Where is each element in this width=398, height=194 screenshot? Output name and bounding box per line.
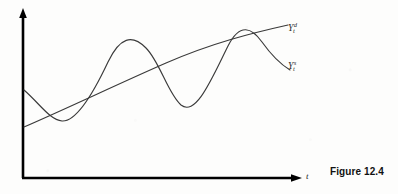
demand-label-superscript: d xyxy=(294,21,297,28)
x-axis-arrowhead xyxy=(291,174,302,182)
figure-caption: Figure 12.4 xyxy=(330,166,384,177)
demand-curve xyxy=(24,25,288,127)
x-axis-label: t xyxy=(306,172,309,181)
figure-container: t Ytd Yts Figure 12.4 xyxy=(0,0,398,194)
supply-label-superscript: s xyxy=(294,59,297,66)
plot-area xyxy=(0,0,398,194)
supply-curve xyxy=(24,30,290,121)
y-axis-arrowhead xyxy=(19,8,27,18)
series-label-demand: Ytd xyxy=(288,22,297,34)
series-label-supply: Yts xyxy=(288,60,296,72)
